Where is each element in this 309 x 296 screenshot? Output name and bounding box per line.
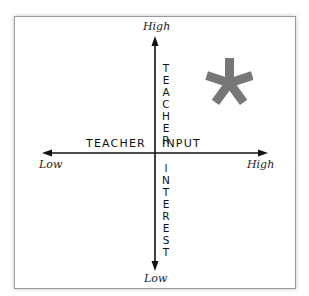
asterisk-icon xyxy=(205,52,253,110)
arrow-up-icon xyxy=(152,36,159,46)
horizontal-axis-low-label: Low xyxy=(39,159,62,171)
horizontal-axis-high-label: High xyxy=(247,159,274,171)
arrow-right-icon xyxy=(258,150,268,157)
horizontal-axis-title-left: TEACHER xyxy=(86,138,146,150)
vertical-axis-title-upper: TEACHER xyxy=(160,62,171,146)
vertical-axis-low-label: Low xyxy=(144,273,167,285)
vertical-axis-title-lower: INTEREST xyxy=(160,162,171,258)
vertical-axis-high-label: High xyxy=(143,21,170,33)
arrow-down-icon xyxy=(152,261,159,271)
arrow-left-icon xyxy=(42,150,52,157)
axes xyxy=(0,0,309,296)
